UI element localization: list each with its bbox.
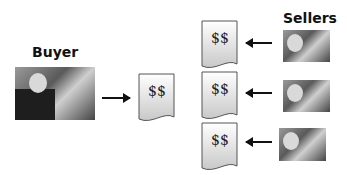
seller-photo-2	[283, 80, 330, 112]
buyer-document: $$	[138, 73, 176, 123]
seller-photo-1	[283, 30, 330, 62]
seller-document-1: $$	[201, 20, 239, 70]
arrow-right-icon	[102, 97, 130, 99]
seller-document-2: $$	[201, 71, 239, 121]
sellers-label: Sellers	[283, 10, 337, 26]
arrow-left-icon	[246, 92, 272, 94]
seller-document-3: $$	[201, 122, 239, 172]
arrow-left-icon	[246, 141, 272, 143]
buyer-label: Buyer	[32, 44, 78, 60]
arrow-left-icon	[246, 42, 272, 44]
buyer-photo	[15, 67, 95, 120]
document-icon	[201, 122, 241, 174]
seller-photo-3	[279, 128, 326, 161]
document-icon	[138, 73, 178, 125]
document-icon	[201, 71, 241, 123]
document-icon	[201, 20, 241, 72]
